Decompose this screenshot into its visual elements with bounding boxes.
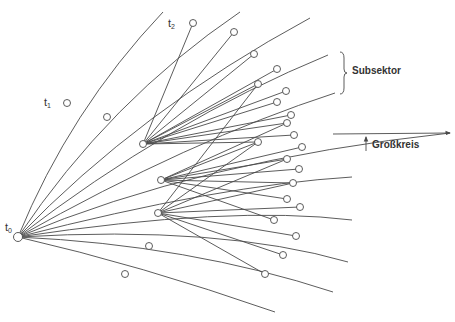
waypoint-node: [296, 166, 303, 173]
great-circle-curve: [18, 12, 163, 237]
label-grosskreis: Großkreis: [372, 139, 420, 150]
grosskreis-arrow: [333, 133, 450, 134]
label-subsektor: Subsektor: [352, 65, 401, 76]
node-c: [155, 210, 162, 217]
waypoint-node: [122, 271, 129, 278]
waypoint-node: [293, 233, 300, 240]
node-a: [140, 141, 147, 148]
great-circle-curve: [18, 215, 352, 237]
waypoint-node: [297, 204, 304, 211]
waypoint-node: [283, 88, 290, 95]
waypoint-node: [146, 243, 153, 250]
waypoint-node: [274, 99, 281, 106]
great-circle-curves: [18, 12, 450, 312]
node-t0: [14, 233, 23, 242]
waypoint-node: [284, 156, 291, 163]
label-t2: t2: [168, 17, 175, 30]
waypoint-nodes: [14, 20, 306, 278]
waypoint-node: [255, 139, 262, 146]
waypoint-node: [274, 66, 281, 73]
waypoint-node: [299, 144, 306, 151]
waypoint-node: [104, 114, 111, 121]
waypoint-node: [255, 81, 262, 88]
node-t1: [64, 100, 71, 107]
waypoint-node: [288, 112, 295, 119]
waypoint-node: [231, 29, 238, 36]
great-circle-curve: [18, 237, 333, 292]
waypoint-node: [291, 132, 298, 139]
node-t2: [190, 20, 197, 27]
node-b: [158, 177, 165, 184]
label-t1: t1: [44, 96, 51, 109]
waypoint-node: [271, 217, 278, 224]
waypoint-node: [251, 51, 258, 58]
hub-spoke: [143, 84, 258, 144]
label-t0: t0: [5, 221, 12, 234]
hub-spokes: [143, 23, 302, 274]
waypoint-node: [290, 180, 297, 187]
subsektor-brace: [340, 52, 347, 94]
waypoint-node: [284, 120, 291, 127]
waypoint-node: [262, 271, 269, 278]
waypoint-node: [280, 252, 287, 259]
waypoint-node: [284, 196, 291, 203]
hub-spoke: [143, 102, 277, 144]
route-fan-diagram: t0 t1 t2 Subsektor Großkreis: [0, 0, 455, 322]
hub-spoke: [161, 159, 287, 180]
hub-spoke: [143, 23, 193, 144]
